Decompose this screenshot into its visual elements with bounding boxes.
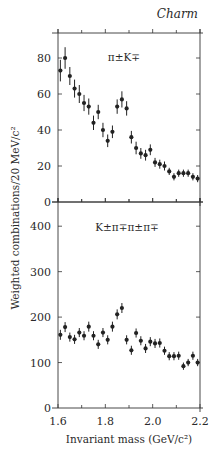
y-tick-label: 40 [37, 124, 51, 137]
data-point [186, 360, 190, 364]
x-tick-label: 2.0 [144, 415, 162, 428]
data-point [68, 74, 72, 78]
data-point [191, 354, 195, 358]
data-point [139, 339, 143, 343]
data-point [115, 312, 119, 316]
data-point [72, 87, 76, 91]
data-point [129, 135, 133, 139]
y-tick-label: 20 [37, 160, 51, 173]
data-point [167, 354, 171, 358]
data-point [153, 160, 157, 164]
figure: Charm 020406080 1.61.82.02.2010020030040… [0, 0, 216, 455]
data-point [167, 169, 171, 173]
data-point [125, 338, 129, 342]
data-point [63, 325, 67, 329]
data-point [106, 338, 110, 342]
data-point [91, 121, 95, 125]
y-tick-label: 200 [30, 311, 51, 324]
data-point [72, 337, 76, 341]
data-point [82, 334, 86, 338]
x-tick-label: 2.2 [191, 415, 209, 428]
data-point [172, 354, 176, 358]
y-tick-label: 400 [30, 220, 51, 233]
data-point [87, 325, 91, 329]
y-tick-label: 300 [30, 266, 51, 279]
data-point [58, 333, 62, 337]
data-point [139, 151, 143, 155]
data-point [106, 139, 110, 143]
data-point [129, 348, 133, 352]
data-point [143, 346, 147, 350]
data-point [82, 101, 86, 105]
data-point [191, 175, 195, 179]
data-point [96, 342, 100, 346]
bottom-channel-label: K±π∓π±π∓ [95, 221, 159, 233]
data-point [186, 171, 190, 175]
data-point [177, 171, 181, 175]
data-point [77, 330, 81, 334]
data-point [158, 162, 162, 166]
y-tick-label: 60 [37, 88, 51, 101]
chart-title: Charm [157, 7, 198, 21]
data-point [148, 148, 152, 152]
data-point [68, 335, 72, 339]
data-point [134, 331, 138, 335]
data-point [148, 340, 152, 344]
data-point [196, 360, 200, 364]
y-tick-label: 0 [44, 196, 51, 209]
data-point [134, 146, 138, 150]
data-point [91, 334, 95, 338]
data-point [196, 177, 200, 181]
y-axis-label: Weighted combinations/20 MeV/c² [9, 126, 21, 309]
top-channel-label: π±K∓ [108, 51, 140, 63]
data-point [153, 341, 157, 345]
data-point [96, 110, 100, 114]
data-point [158, 341, 162, 345]
data-point [63, 56, 67, 60]
x-axis-label: Invariant mass (GeV/c²) [66, 433, 192, 445]
y-tick-label: 100 [30, 357, 51, 370]
data-point [58, 69, 62, 73]
data-point [110, 325, 114, 329]
x-tick-label: 1.8 [97, 415, 115, 428]
data-point [110, 130, 114, 134]
y-tick-label: 0 [44, 402, 51, 415]
data-point [162, 164, 166, 168]
data-point [101, 128, 105, 132]
data-point [87, 105, 91, 109]
data-point [177, 354, 181, 358]
data-point [181, 364, 185, 368]
data-point [77, 92, 81, 96]
x-tick-label: 1.6 [49, 415, 67, 428]
y-tick-label: 80 [37, 52, 51, 65]
data-point [181, 171, 185, 175]
data-point [143, 153, 147, 157]
data-point [162, 349, 166, 353]
data-point [172, 175, 176, 179]
data-point [120, 306, 124, 310]
data-point [125, 106, 129, 110]
data-point [101, 330, 105, 334]
data-point [115, 105, 119, 109]
data-point [120, 97, 124, 101]
